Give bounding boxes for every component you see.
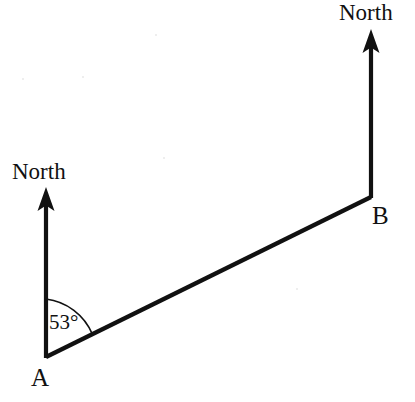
- point-b-label: B: [372, 203, 389, 228]
- angle-value-label: 53°: [49, 312, 78, 333]
- north-label-b: North: [339, 1, 393, 24]
- line-a-to-b: [46, 197, 371, 357]
- bearing-diagram-canvas: [0, 0, 415, 402]
- point-a-label: A: [31, 365, 49, 390]
- north-label-a: North: [12, 160, 66, 183]
- bearing-diagram-figure: North North A B 53°: [0, 0, 415, 402]
